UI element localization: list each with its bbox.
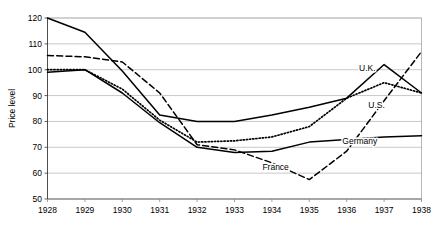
x-tick-label: 1935 <box>300 205 319 215</box>
x-tick-label: 1937 <box>375 205 394 215</box>
x-axis: 1928192919301931193219331934193519361937… <box>38 199 431 215</box>
x-tick-label: 1929 <box>75 205 94 215</box>
x-tick-label: 1934 <box>262 205 281 215</box>
data-series-group <box>48 18 422 180</box>
y-tick-label: 80 <box>33 116 43 126</box>
y-axis: 5060708090100110120 <box>28 13 48 204</box>
y-tick-label: 110 <box>28 39 42 49</box>
series-label-us: U.S. <box>368 100 385 110</box>
x-tick-label: 1931 <box>150 205 169 215</box>
y-tick-label: 90 <box>33 91 43 101</box>
x-tick-label: 1936 <box>337 205 356 215</box>
y-tick-label: 60 <box>33 168 43 178</box>
plot-frame <box>48 18 422 199</box>
y-tick-label: 100 <box>28 65 42 75</box>
x-tick-label: 1932 <box>188 205 207 215</box>
price-level-line-chart: 5060708090100110120Price level1928192919… <box>0 0 441 234</box>
y-axis-title: Price level <box>7 89 17 128</box>
y-tick-label: 120 <box>28 13 42 23</box>
x-tick-label: 1928 <box>38 205 57 215</box>
series-label-uk: U.K. <box>359 63 376 73</box>
y-tick-label: 70 <box>33 142 43 152</box>
chart-canvas: 5060708090100110120Price level1928192919… <box>0 0 441 234</box>
y-tick-label: 50 <box>33 194 43 204</box>
series-label-france: France <box>262 162 289 172</box>
x-tick-label: 1938 <box>412 205 431 215</box>
series-label-germany: Germany <box>342 136 378 146</box>
x-tick-label: 1933 <box>225 205 244 215</box>
x-tick-label: 1930 <box>113 205 132 215</box>
